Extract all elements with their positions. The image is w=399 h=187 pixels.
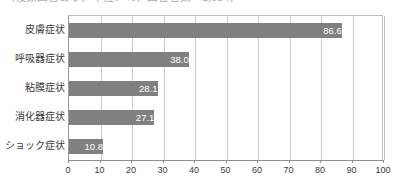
category-label-呼吸器症状: 呼吸器症状 [0, 53, 65, 64]
x-tick-50 [226, 160, 227, 163]
x-tick-label-50: 50 [220, 165, 230, 176]
horizontal-bar-chart: 皮膚症状呼吸器症状粘膜症状消化器症状ショック症状 86.638.028.127.… [0, 9, 399, 187]
x-tick-label-70: 70 [283, 165, 293, 176]
category-label-消化器症状: 消化器症状 [0, 111, 65, 122]
category-label-皮膚症状: 皮膚症状 [0, 24, 65, 35]
x-tick-label-60: 60 [252, 165, 262, 176]
x-tick-label-20: 20 [126, 165, 136, 176]
bar-row: 38.0 [69, 52, 384, 67]
x-tick-90 [352, 160, 353, 163]
bar-value-label: 27.1 [69, 110, 158, 125]
category-label-column: 皮膚症状呼吸器症状粘膜症状消化器症状ショック症状 [0, 9, 68, 160]
x-tick-10 [100, 160, 101, 163]
x-tick-80 [320, 160, 321, 163]
x-tick-60 [257, 160, 258, 163]
gridline-100 [384, 16, 385, 160]
clipped-title-strip: （複数回答あり、単位：％、回答者数＝1,054） [0, 0, 399, 9]
x-tick-label-10: 10 [94, 165, 104, 176]
x-tick-label-40: 40 [189, 165, 199, 176]
bar-value-label: 28.1 [69, 81, 162, 96]
bar-value-label: 86.6 [69, 23, 346, 38]
plot-area: 86.638.028.127.110.8 [68, 15, 383, 160]
bar-value-label: 38.0 [69, 52, 193, 67]
x-tick-0 [68, 160, 69, 163]
bar-row: 10.8 [69, 139, 384, 154]
bar-row: 28.1 [69, 81, 384, 96]
x-tick-30 [163, 160, 164, 163]
x-tick-40 [194, 160, 195, 163]
x-tick-label-0: 0 [65, 165, 70, 176]
x-tick-label-100: 100 [375, 165, 390, 176]
x-tick-label-30: 30 [157, 165, 167, 176]
bar-value-label: 10.8 [69, 139, 107, 154]
x-tick-70 [289, 160, 290, 163]
bar-row: 86.6 [69, 23, 384, 38]
x-tick-label-90: 90 [346, 165, 356, 176]
x-tick-100 [383, 160, 384, 163]
category-label-粘膜症状: 粘膜症状 [0, 82, 65, 93]
bar-row: 27.1 [69, 110, 384, 125]
category-label-ショック症状: ショック症状 [0, 140, 65, 151]
chart-title-clipped: （複数回答あり、単位：％、回答者数＝1,054） [4, 0, 241, 4]
x-tick-label-80: 80 [315, 165, 325, 176]
x-tick-20 [131, 160, 132, 163]
